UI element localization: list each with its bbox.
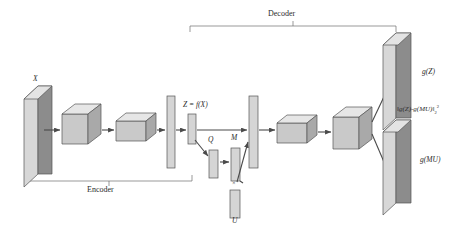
dense-bar-2 [249,96,258,168]
loss-formula-subscript: 2 [434,110,436,115]
matrix-u-label: U [232,217,237,225]
conv-block-1 [62,104,101,144]
conv-block-2 [116,113,156,141]
dense-bar-1 [167,96,175,168]
output-plane-bottom [383,120,411,215]
matrix-q-label: Q [208,136,213,144]
latent-code-label: Z = f(X) [183,101,208,109]
input-plane-label: X [33,75,38,83]
latent-bar-Z [188,114,196,144]
encoder-bracket-label: Encoder [87,186,114,194]
matrix-bar-U [230,190,240,218]
loss-formula-body: ‖g(Z)-g(MU)‖ [397,105,434,113]
arrow-latent-to-Q [195,140,208,156]
diagram-canvas: Decoder Encoder X Z = f(X) Q M × U g(Z) … [0,0,470,225]
arrow-MU-joint [240,181,243,183]
matrix-m-label: M [231,134,237,142]
deconv-block-2 [333,107,372,149]
output-bottom-label: g(MU) [420,156,440,164]
output-plane-top [383,33,411,130]
loss-formula: ‖g(Z)-g(MU)‖22 [397,105,439,115]
deconv-block-1 [277,115,317,143]
loss-formula-superscript: 2 [437,104,439,109]
decoder-bracket [190,21,396,32]
decoder-bracket-label: Decoder [268,10,295,18]
multiply-symbol: × [232,180,236,187]
matrix-bar-Q [209,150,218,178]
input-plane-X [24,86,52,187]
output-top-label: g(Z) [422,68,435,76]
